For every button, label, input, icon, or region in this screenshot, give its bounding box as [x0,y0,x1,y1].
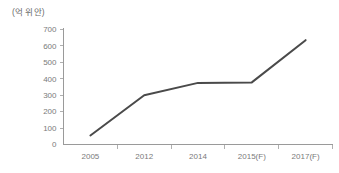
y-axis-tick-label: 0 [52,140,57,149]
line-chart: (억 위안) 0100200300400500600700 2005201220… [0,0,339,173]
x-axis-tick-label: 2015(F) [238,152,266,161]
y-axis-tick-label: 400 [43,75,57,84]
x-axis-tick-labels: 2005201220142015(F)2017(F) [82,152,320,161]
y-axis-tick-label: 200 [43,107,57,116]
chart-plot-area: 0100200300400500600700 2005201220142015(… [0,0,339,173]
y-axis-tick-label: 500 [43,58,57,67]
y-axis-tick-label: 300 [43,91,57,100]
y-axis-tick-label: 600 [43,42,57,51]
x-axis-tick-label: 2012 [135,152,153,161]
y-axis-tick-marks [60,30,64,129]
y-axis-tick-labels: 0100200300400500600700 [43,25,57,149]
x-axis-tick-label: 2005 [82,152,100,161]
y-axis-tick-label: 700 [43,25,57,34]
x-axis-tick-marks [117,145,332,149]
data-series-line [90,40,305,135]
x-axis-tick-label: 2014 [189,152,207,161]
x-axis-tick-label: 2017(F) [292,152,320,161]
y-axis-tick-label: 100 [43,124,57,133]
